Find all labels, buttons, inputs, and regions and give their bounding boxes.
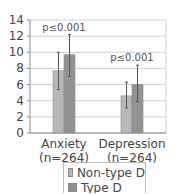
y-tick-label: 12 xyxy=(9,29,24,43)
y-tick-label: 8 xyxy=(16,61,24,75)
legend-swatch-non-type-d xyxy=(68,168,73,177)
annotations: p≤0.001p≤0.001 xyxy=(42,22,153,64)
p-value-annotation: p≤0.001 xyxy=(42,22,85,33)
legend-label: Non-type D xyxy=(77,166,145,180)
y-tick-label: 0 xyxy=(16,126,24,140)
legend-label: Type D xyxy=(81,181,122,194)
gridlines xyxy=(30,20,166,133)
x-category-label: Depression xyxy=(98,137,165,151)
legend-swatch-type-d xyxy=(68,183,77,192)
y-tick-label: 6 xyxy=(16,78,24,92)
y-tick-label: 2 xyxy=(16,110,24,124)
bars xyxy=(53,55,143,133)
p-value-annotation: p≤0.001 xyxy=(110,52,153,63)
legend: Non-type D Type D xyxy=(63,162,146,193)
x-axis-categories: Anxiety(n=264)Depression(n=264) xyxy=(39,137,166,165)
legend-item-type-d: Type D xyxy=(68,180,145,193)
x-category-label: Anxiety xyxy=(41,137,86,151)
legend-item-non-type-d: Non-type D xyxy=(68,165,145,180)
y-tick-label: 10 xyxy=(9,45,24,59)
y-tick-label: 14 xyxy=(9,13,24,27)
y-tick-label: 4 xyxy=(16,94,24,108)
